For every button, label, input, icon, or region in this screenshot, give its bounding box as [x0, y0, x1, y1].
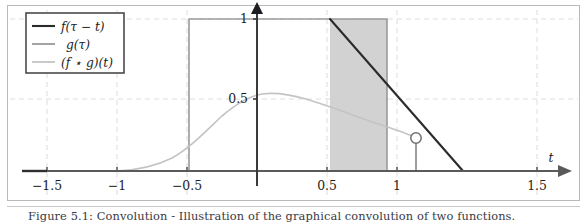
y-tick-label-0.5: 0.5	[228, 91, 248, 106]
legend: f(τ − t) g(τ) (f ⋆ g)(t)	[26, 13, 124, 73]
legend-label-g: g(τ)	[66, 38, 90, 52]
x-axis-arrow	[558, 165, 572, 177]
x-tick-label--0.5: −0.5	[172, 178, 202, 193]
legend-label-f: f(τ − t)	[60, 20, 105, 34]
caption-divider	[7, 206, 580, 207]
x-axis-label: t	[549, 150, 554, 165]
y-tick-label-1: 1	[240, 11, 248, 26]
figure-convolution-illustration: −1.5 −1 −0.5 0.5 1 1.5 1 0.5 t f(τ − t) …	[0, 0, 587, 224]
x-tick-label-1: 1	[393, 178, 401, 193]
overlap-shading	[330, 19, 387, 171]
plot-canvas: −1.5 −1 −0.5 0.5 1 1.5 1 0.5 t f(τ − t) …	[0, 0, 587, 224]
x-tick-label--1.5: −1.5	[32, 178, 62, 193]
figure-caption: Figure 5.1: Convolution - Illustration o…	[28, 209, 573, 224]
y-axis-arrow	[251, 2, 263, 14]
conv-endpoint-marker	[411, 133, 421, 143]
x-tick-label--1: −1	[108, 178, 126, 193]
legend-label-conv: (f ⋆ g)(t)	[61, 56, 113, 70]
x-tick-label-1.5: 1.5	[527, 178, 547, 193]
x-tick-label-0.5: 0.5	[317, 178, 337, 193]
x-axis	[22, 165, 572, 177]
